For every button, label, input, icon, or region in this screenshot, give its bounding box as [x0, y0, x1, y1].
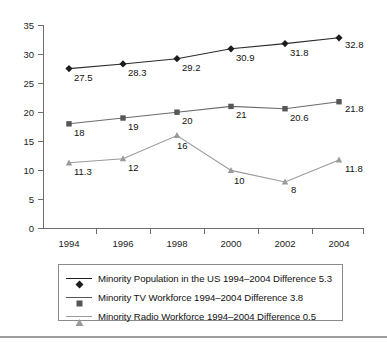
- data-point-label: 20: [182, 115, 193, 126]
- page-bottom-rule: [0, 336, 387, 338]
- data-point-marker: [336, 156, 342, 162]
- data-point-label: 10: [234, 175, 245, 186]
- data-point-marker: [120, 115, 125, 120]
- series-point-labels-minority-population: 27.528.329.230.931.832.8: [74, 39, 364, 83]
- legend-item-minority-radio-workforce[interactable]: Minority Radio Workforce 1994–2004 Diffe…: [66, 309, 342, 324]
- data-point-label: 28.3: [128, 67, 147, 78]
- x-tick-label: 2002: [274, 238, 295, 249]
- data-point-label: 8: [291, 184, 296, 195]
- x-tick-label: 2004: [328, 238, 349, 249]
- series-layer: 27.528.329.230.931.832.8 1819202120.621.…: [65, 34, 363, 195]
- y-tick-label: 25: [23, 78, 34, 89]
- data-point-marker: [174, 110, 179, 115]
- chart-plot-svg: 35 30 25 20 15 10 5 0 1994 199: [0, 0, 387, 258]
- data-point-marker: [336, 99, 341, 104]
- data-point-label: 18: [74, 127, 85, 138]
- data-point-marker: [119, 60, 126, 67]
- data-point-marker: [335, 34, 342, 41]
- data-point-marker: [174, 132, 180, 138]
- y-tick-label: 10: [23, 165, 34, 176]
- x-tick-label: 1994: [58, 238, 79, 249]
- x-axis-ticks: [97, 229, 364, 235]
- data-point-label: 16: [177, 140, 188, 151]
- data-point-label: 20.6: [290, 112, 309, 123]
- chart-legend: Minority Population in the US 1994–2004 …: [58, 264, 343, 321]
- legend-item-minority-population[interactable]: Minority Population in the US 1994–2004 …: [66, 271, 342, 286]
- data-point-marker: [66, 121, 71, 126]
- series-markers-minority-radio-workforce: [66, 132, 342, 185]
- legend-key-triangle-icon: [66, 311, 92, 322]
- data-point-marker: [282, 106, 287, 111]
- y-tick-label: 15: [23, 136, 34, 147]
- chart-page: 35 30 25 20 15 10 5 0 1994 199: [0, 0, 387, 344]
- legend-label: Minority Radio Workforce 1994–2004 Diffe…: [98, 311, 316, 322]
- y-axis-labels: 35 30 25 20 15 10 5 0: [23, 20, 34, 234]
- line-chart: 35 30 25 20 15 10 5 0 1994 199: [0, 0, 387, 258]
- legend-key-square-icon: [66, 292, 92, 303]
- data-point-label: 27.5: [74, 72, 93, 83]
- data-point-label: 30.9: [236, 52, 255, 63]
- x-tick-label: 1996: [112, 238, 133, 249]
- data-point-marker: [228, 167, 234, 173]
- data-point-marker: [227, 45, 234, 52]
- legend-key-diamond-icon: [66, 273, 92, 284]
- data-point-label: 21.8: [345, 103, 364, 114]
- x-axis-labels: 1994 1996 1998 2000 2002 2004: [58, 238, 349, 249]
- x-tick-label: 1998: [166, 238, 187, 249]
- y-axis-ticks: [38, 26, 44, 229]
- data-point-marker: [281, 40, 288, 47]
- data-point-label: 19: [128, 121, 139, 132]
- data-point-label: 32.8: [345, 39, 364, 50]
- y-tick-label: 0: [29, 223, 34, 234]
- data-point-label: 29.2: [182, 62, 201, 73]
- y-tick-label: 30: [23, 49, 34, 60]
- data-point-label: 11.3: [74, 166, 92, 177]
- legend-label: Minority TV Workforce 1994–2004 Differen…: [98, 292, 303, 303]
- legend-label: Minority Population in the US 1994–2004 …: [98, 273, 332, 284]
- y-tick-label: 20: [23, 107, 34, 118]
- data-point-label: 21: [236, 109, 247, 120]
- data-point-label: 31.8: [290, 47, 309, 58]
- x-tick-label: 2000: [220, 238, 241, 249]
- data-point-label: 11.8: [345, 163, 363, 174]
- y-tick-label: 35: [23, 20, 34, 31]
- data-point-marker: [173, 55, 180, 62]
- data-point-marker: [228, 104, 233, 109]
- legend-item-minority-tv-workforce[interactable]: Minority TV Workforce 1994–2004 Differen…: [66, 290, 342, 305]
- y-tick-label: 5: [29, 194, 34, 205]
- series-line-minority-radio-workforce: [69, 136, 339, 183]
- data-point-marker: [65, 65, 72, 72]
- data-point-label: 12: [128, 162, 139, 173]
